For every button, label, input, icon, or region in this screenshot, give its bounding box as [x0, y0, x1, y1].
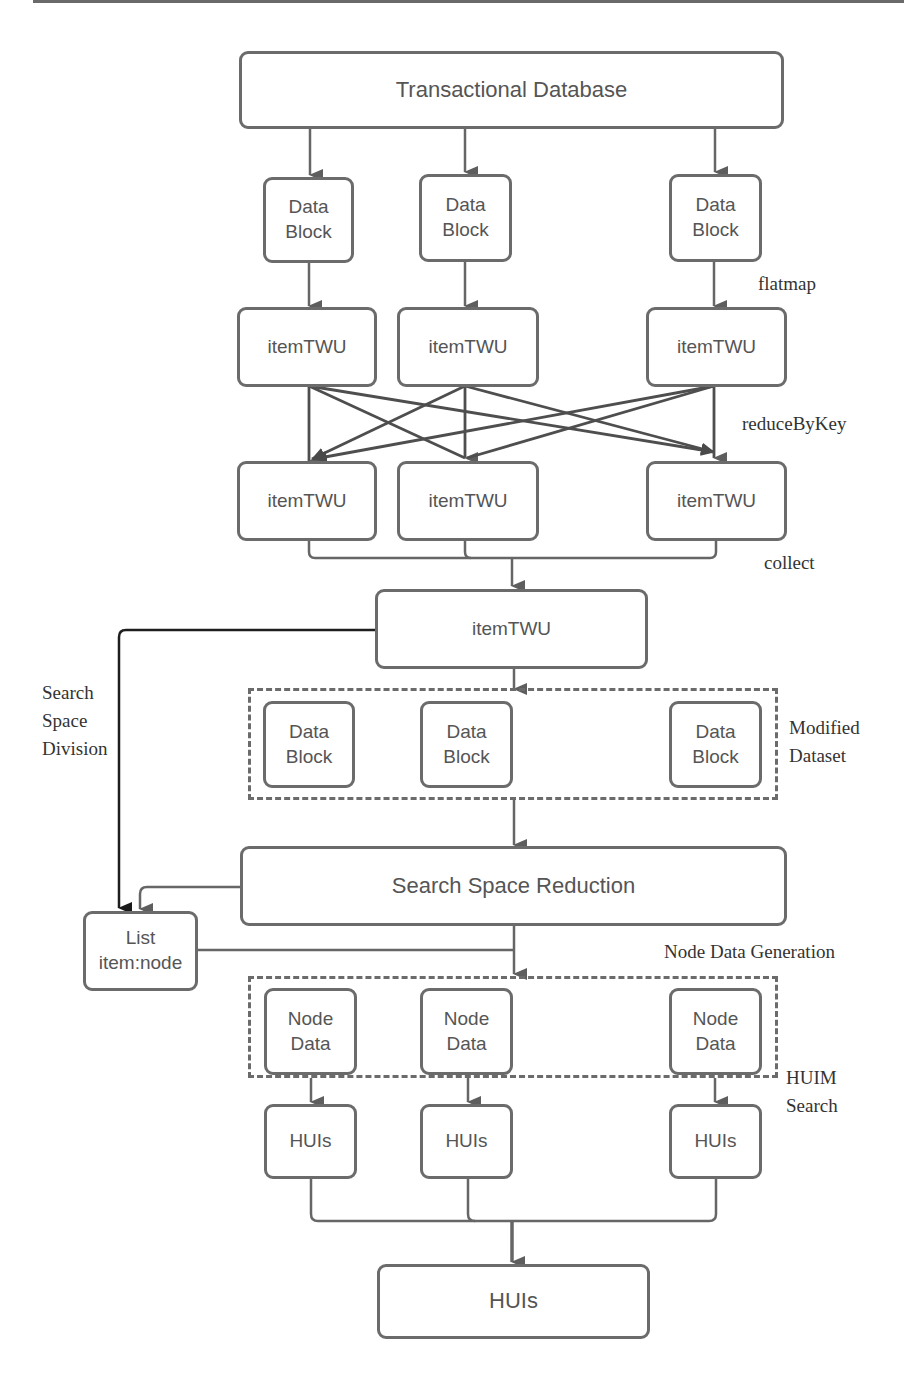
modified-dataset-line2: Dataset — [789, 742, 860, 770]
item-twu-reduce-2-label: itemTWU — [428, 489, 507, 514]
list-item-node-box: Listitem:node — [83, 911, 198, 991]
huim-search-line1: HUIM — [786, 1064, 838, 1092]
data-block-3: DataBlock — [669, 174, 762, 262]
item-twu-reduce-3: itemTWU — [646, 461, 787, 541]
modified-dataset-line1: Modified — [789, 714, 860, 742]
flatmap-label: flatmap — [758, 270, 816, 298]
node-data-2-line1: Node — [444, 1007, 489, 1032]
list-item-node-line2: item:node — [99, 951, 182, 976]
node-data-1-line1: Node — [288, 1007, 333, 1032]
huis-1-label: HUIs — [289, 1129, 331, 1154]
node-data-3: NodeData — [669, 988, 762, 1075]
data-block-3-line2: Block — [692, 218, 738, 243]
huim-search-line2: Search — [786, 1092, 838, 1120]
search-space-reduction-label: Search Space Reduction — [392, 872, 635, 901]
search-space-division-line3: Division — [42, 735, 107, 763]
item-twu-map-3-label: itemTWU — [677, 335, 756, 360]
modified-data-block-1-line1: Data — [286, 720, 332, 745]
modified-data-block-3-line2: Block — [692, 745, 738, 770]
flow-diagram: Transactional Database DataBlock DataBlo… — [0, 0, 904, 1378]
data-block-2-line1: Data — [442, 193, 488, 218]
data-block-1-line2: Block — [285, 220, 331, 245]
modified-data-block-3-line1: Data — [692, 720, 738, 745]
item-twu-map-2-label: itemTWU — [428, 335, 507, 360]
node-data-2: NodeData — [420, 988, 513, 1075]
data-block-2-line2: Block — [442, 218, 488, 243]
node-data-1-line2: Data — [288, 1032, 333, 1057]
node-data-1: NodeData — [264, 988, 357, 1075]
huim-search-label: HUIM Search — [786, 1064, 838, 1120]
transactional-database-box: Transactional Database — [239, 51, 784, 129]
item-twu-map-2: itemTWU — [397, 307, 539, 387]
item-twu-collected-label: itemTWU — [472, 617, 551, 642]
item-twu-reduce-3-label: itemTWU — [677, 489, 756, 514]
huis-final-box: HUIs — [377, 1264, 650, 1339]
huis-final-label: HUIs — [489, 1287, 538, 1316]
arrow-reduction-to-list — [140, 887, 240, 909]
node-data-generation-label: Node Data Generation — [664, 938, 835, 966]
data-block-2: DataBlock — [419, 174, 512, 262]
search-space-reduction-box: Search Space Reduction — [240, 846, 787, 926]
search-space-division-line2: Space — [42, 707, 107, 735]
item-twu-map-1: itemTWU — [237, 307, 377, 387]
modified-data-block-3: DataBlock — [669, 701, 762, 788]
item-twu-reduce-2: itemTWU — [397, 461, 539, 541]
modified-data-block-1-line2: Block — [286, 745, 332, 770]
modified-data-block-2-line2: Block — [443, 745, 489, 770]
node-data-3-line2: Data — [693, 1032, 738, 1057]
huis-box-1: HUIs — [264, 1104, 357, 1179]
item-twu-map-1-label: itemTWU — [267, 335, 346, 360]
item-twu-reduce-1-label: itemTWU — [267, 489, 346, 514]
modified-data-block-1: DataBlock — [263, 701, 355, 788]
shuffle-arrows — [309, 386, 714, 461]
reduce-by-key-label: reduceByKey — [742, 410, 846, 438]
huis-box-2: HUIs — [420, 1104, 513, 1179]
transactional-database-label: Transactional Database — [396, 76, 628, 105]
modified-data-block-2: DataBlock — [420, 701, 513, 788]
collect-label: collect — [764, 549, 815, 577]
item-twu-collected: itemTWU — [375, 589, 648, 669]
node-data-2-line2: Data — [444, 1032, 489, 1057]
data-block-1: DataBlock — [263, 177, 354, 263]
collect-bus — [309, 540, 716, 558]
huis-box-3: HUIs — [669, 1104, 762, 1179]
search-space-division-label: Search Space Division — [42, 679, 107, 763]
huis-3-label: HUIs — [694, 1129, 736, 1154]
huis-merge-bus — [311, 1178, 716, 1221]
modified-data-block-2-line1: Data — [443, 720, 489, 745]
data-block-1-line1: Data — [285, 195, 331, 220]
item-twu-map-3: itemTWU — [646, 307, 787, 387]
item-twu-reduce-1: itemTWU — [237, 461, 377, 541]
data-block-3-line1: Data — [692, 193, 738, 218]
search-space-division-line1: Search — [42, 679, 107, 707]
huis-2-label: HUIs — [445, 1129, 487, 1154]
list-item-node-line1: List — [99, 926, 182, 951]
node-data-3-line1: Node — [693, 1007, 738, 1032]
modified-dataset-label: Modified Dataset — [789, 714, 860, 770]
